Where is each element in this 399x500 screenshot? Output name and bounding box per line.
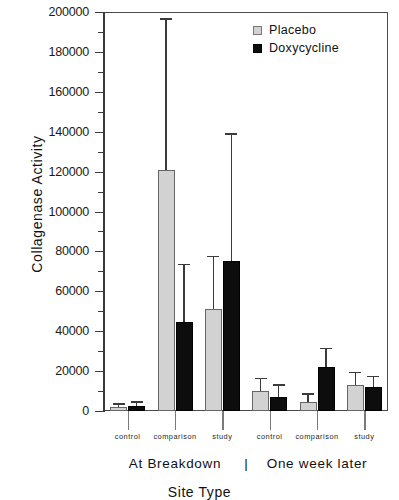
group-label-1: At Breakdown [129,456,221,471]
y-tick-label: 200000 [48,5,89,19]
y-tick-major [95,371,103,372]
x-tick [222,411,223,430]
y-tick-minor [98,192,103,193]
y-tick-major [95,52,103,53]
x-category-label: control [115,432,141,441]
error-bar-stem [325,349,327,367]
bar-control-doxycycline [128,406,145,411]
legend-item-placebo: Placebo [253,23,339,37]
y-tick-minor [98,112,103,113]
error-bar-stem [136,403,138,406]
x-category-label: study [212,432,232,441]
y-tick-major [95,291,103,292]
y-tick-label: 20000 [55,364,89,378]
y-tick-minor [98,72,103,73]
error-bar-stem [260,379,262,391]
y-tick-minor [98,32,103,33]
error-bar-cap [207,256,219,258]
y-tick-minor [98,231,103,232]
bars-layer [104,12,388,411]
error-bar-stem [307,395,309,402]
y-tick-minor [98,311,103,312]
error-bar-cap [349,372,361,374]
x-tick [317,411,318,430]
bar-comparison-placebo [158,170,175,411]
group-separator: | [244,456,248,471]
y-tick-major [95,411,103,412]
legend-label: Doxycycline [269,41,339,55]
error-bar-cap [131,401,143,403]
error-bar-stem [118,405,120,407]
error-bar-cap [320,348,332,350]
bar-control-doxycycline [270,397,287,411]
y-tick-label: 160000 [48,85,89,99]
x-tick [175,411,176,430]
error-bar-cap [367,376,379,378]
y-tick-label: 140000 [48,125,89,139]
y-tick-label: 80000 [55,244,89,258]
x-axis-title: Site Type [0,484,399,500]
y-axis-title: Collagenase Activity [29,104,45,304]
x-category-label: control [257,432,283,441]
y-tick-minor [98,391,103,392]
y-tick-minor [98,271,103,272]
y-tick-major [95,172,103,173]
error-bar-stem [183,265,185,322]
x-tick [128,411,129,430]
error-bar-cap [160,18,172,20]
bar-study-placebo [205,309,222,411]
error-bar-stem [231,135,233,262]
error-bar-stem [278,386,280,397]
y-tick-major [95,212,103,213]
y-tick-label: 180000 [48,45,89,59]
bar-control-placebo [252,391,269,411]
y-tick-major [95,132,103,133]
legend-swatch-doxy [253,44,262,53]
y-tick-label: 100000 [48,205,89,219]
y-tick-major [95,12,103,13]
y-axis-tick-labels: 2000001800001600001400001200001000008000… [0,12,103,411]
error-bar-stem [355,373,357,385]
bar-study-placebo [347,385,364,411]
legend-swatch-placebo [253,26,262,35]
error-bar-cap [225,133,237,135]
error-bar-cap [178,264,190,266]
y-tick-major [95,92,103,93]
bar-comparison-doxycycline [176,322,193,411]
bar-control-placebo [110,407,127,411]
error-bar-stem [373,377,375,387]
error-bar-cap [255,378,267,380]
bar-study-doxycycline [365,387,382,411]
y-tick-minor [98,152,103,153]
legend-item-doxy: Doxycycline [253,41,339,55]
group-label-2: One week later [267,456,368,471]
legend: PlaceboDoxycycline [253,23,339,59]
bar-comparison-doxycycline [318,367,335,411]
bar-study-doxycycline [223,261,240,411]
error-bar-cap [113,403,125,405]
y-tick-label: 0 [82,404,89,418]
y-tick-major [95,331,103,332]
x-category-label: comparison [295,432,338,441]
collagenase-activity-chart: 2000001800001600001400001200001000008000… [0,0,399,500]
y-tick-major [95,251,103,252]
x-category-label: study [354,432,374,441]
x-category-label: comparison [153,432,196,441]
error-bar-cap [302,393,314,395]
error-bar-stem [165,20,167,170]
y-tick-label: 40000 [55,324,89,338]
y-tick-label: 60000 [55,284,89,298]
error-bar-stem [213,257,215,309]
bar-comparison-placebo [300,402,317,411]
x-tick [270,411,271,430]
legend-label: Placebo [269,23,316,37]
y-tick-minor [98,351,103,352]
error-bar-cap [273,384,285,386]
y-tick-label: 120000 [48,165,89,179]
x-tick [364,411,365,430]
